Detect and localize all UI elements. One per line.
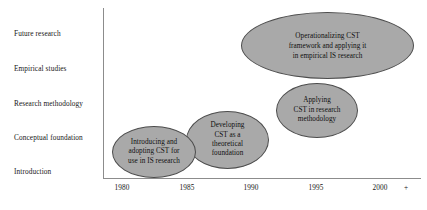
y-axis-line [103,8,104,179]
bubble-developing-cst[interactable]: Developing CST as a theoretical foundati… [186,111,269,169]
x-axis-tick-1995: 1995 [309,183,324,192]
bubble-line-4: foundation [212,149,244,157]
bubble-line-2: CST as a [214,131,240,139]
x-axis-line [103,178,421,179]
bubble-line-2: framework and applying it [289,42,367,50]
x-axis-tick-2000: 2000 [373,183,388,192]
y-axis-label-research-methodology: Research methodology [14,99,100,108]
bubble-applying-cst[interactable]: Applying CST in research methodology [276,83,358,138]
y-axis-label-empirical-studies: Empirical studies [14,64,100,73]
bubble-line-3: in empirical IS research [293,52,363,60]
bubble-applying-cst-text: Applying CST in research methodology [290,96,345,124]
timeline-chart: Future research Empirical studies Resear… [0,0,427,210]
bubble-operationalizing-cst-text: Operationalizing CST framework and apply… [285,31,371,61]
bubble-line-2: CST in research [294,106,341,114]
x-axis-tick-1990: 1990 [244,183,259,192]
bubble-introducing-cst-text: Introducing and adopting CST for use in … [124,138,184,166]
y-axis-label-future-research: Future research [14,29,100,38]
bubble-line-1: Developing [210,121,244,129]
x-axis-tick-1980: 1980 [115,183,130,192]
bubble-line-3: use in IS research [128,157,180,165]
bubble-introducing-cst[interactable]: Introducing and adopting CST for use in … [112,126,196,178]
bubble-line-2: adopting CST for [129,147,180,155]
bubble-operationalizing-cst[interactable]: Operationalizing CST framework and apply… [241,12,414,79]
bubble-line-1: Applying [303,96,331,104]
y-axis-label-conceptual-foundation: Conceptual foundation [14,133,100,142]
x-axis-tick-plus: + [404,183,408,192]
y-axis-label-introduction: Introduction [14,167,100,176]
bubble-line-3: methodology [298,115,336,123]
bubble-developing-cst-text: Developing CST as a theoretical foundati… [206,121,248,159]
bubble-line-1: Operationalizing CST [295,32,359,40]
x-axis-tick-1985: 1985 [180,183,195,192]
bubble-line-3: theoretical [212,140,243,148]
bubble-line-1: Introducing and [131,138,177,146]
